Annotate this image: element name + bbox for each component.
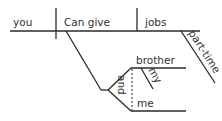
subject-word: you: [13, 16, 32, 28]
conjunction-word: and: [116, 75, 128, 95]
indirect-object-stem: [66, 31, 101, 90]
indirect-object-2: me: [137, 97, 154, 109]
direct-object-word: jobs: [144, 16, 166, 28]
verb-word: Can give: [64, 16, 110, 28]
indirect-object-1: brother: [136, 54, 175, 66]
object-modifier-word: part-time: [186, 28, 222, 76]
sentence-diagram: you Can give jobs part-time and brother …: [0, 0, 222, 121]
